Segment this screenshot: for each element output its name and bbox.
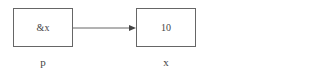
variable-x-value: 10 xyxy=(161,22,171,33)
variable-x-label: x xyxy=(156,56,176,68)
arrowhead-icon xyxy=(129,25,136,31)
variable-x-box: 10 xyxy=(136,8,196,47)
